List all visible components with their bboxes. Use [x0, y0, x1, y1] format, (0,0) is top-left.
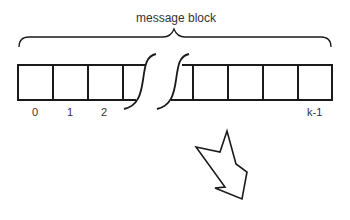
cell-label-0: 0: [32, 106, 38, 118]
cell-1: [53, 65, 88, 100]
cell-k-3: [228, 65, 263, 100]
cell-k-4: [193, 65, 228, 100]
cell-k-1: [298, 65, 332, 100]
down-right-arrow-icon: [196, 131, 247, 199]
cell-3-partial: [123, 65, 145, 100]
cell-0: [18, 65, 53, 100]
cell-2: [88, 65, 123, 100]
cell-label-2: 2: [101, 106, 107, 118]
cell-k-2: [263, 65, 298, 100]
cell-label-1: 1: [67, 106, 73, 118]
cell-label-k-1: k-1: [307, 106, 322, 118]
cell-partial-right: [171, 65, 193, 100]
message-block-diagram: [0, 0, 350, 220]
left-cells: [18, 65, 145, 100]
diagram-title: message block: [136, 12, 216, 24]
right-cells: [171, 65, 332, 100]
curly-brace: [19, 29, 331, 47]
